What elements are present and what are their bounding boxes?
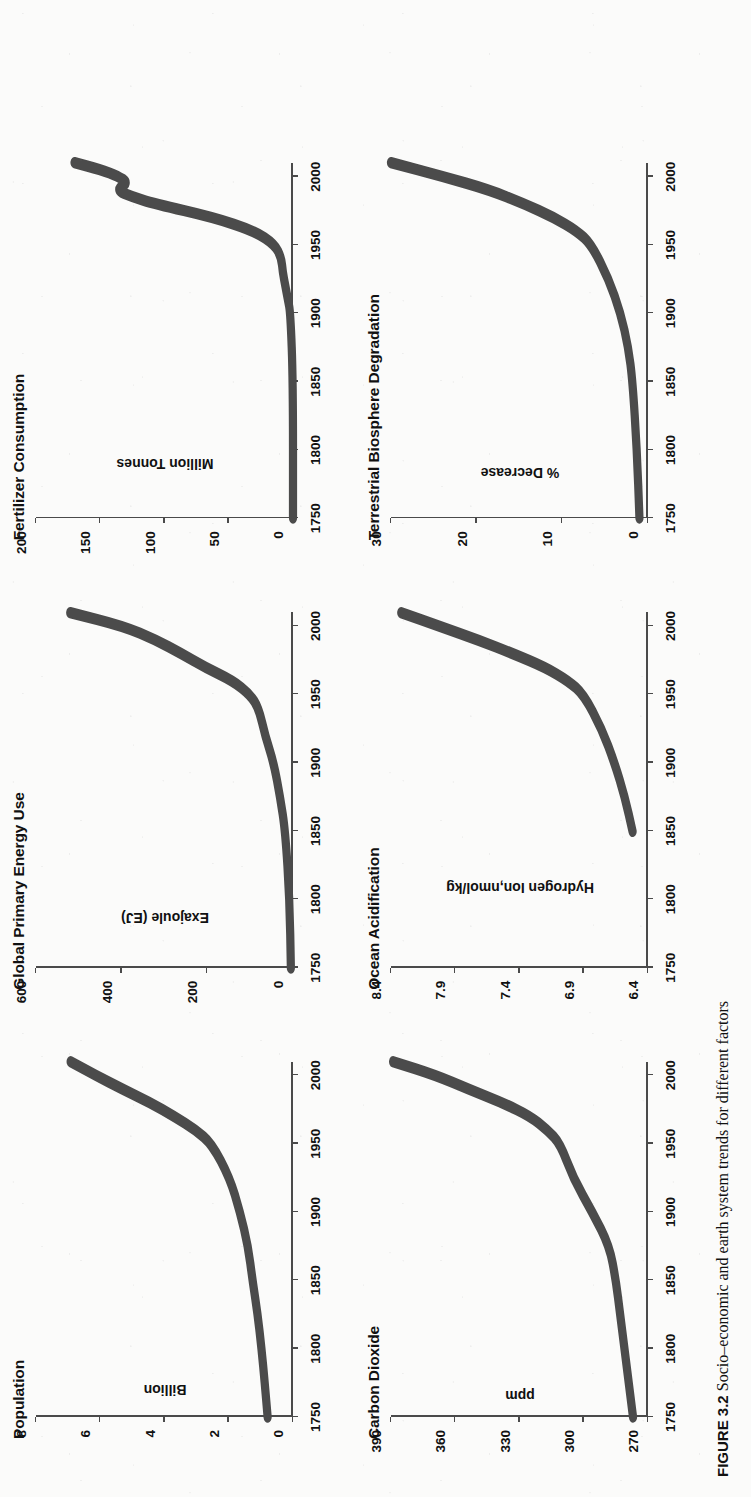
x-tick-label: 1800 (663, 1334, 678, 1364)
x-tick-mark (648, 830, 653, 831)
x-tick-label: 1800 (308, 435, 323, 465)
y-tick-labels-global-primary-energy-use: 0200400600 (36, 972, 293, 1024)
x-tick-mark (648, 244, 653, 245)
x-tick-label: 1850 (308, 816, 323, 846)
data-curve-ocean-acidification (391, 612, 648, 967)
x-tick-label: 1900 (663, 748, 678, 778)
x-tick-label: 1800 (308, 1334, 323, 1364)
data-curve-fertilizer-consumption (36, 163, 293, 518)
x-tick-mark (293, 1279, 298, 1280)
x-tick-labels-population: 175018001850190019502000 (299, 1062, 319, 1417)
x-tick-labels-terrestrial-biosphere-degradation: 175018001850190019502000 (654, 163, 674, 518)
chart-panel-fertilizer-consumption: Fertilizer Consumption Million Tonnes 17… (6, 147, 351, 580)
x-tick-mark (648, 1347, 653, 1348)
x-tick-mark (293, 625, 298, 626)
y-tick-label: 20 (454, 531, 469, 546)
y-tick-label: 10 (540, 531, 555, 546)
y-tick-label: 0 (271, 531, 286, 539)
y-tick-label: 400 (99, 981, 114, 1004)
data-curve-global-primary-energy-use (36, 612, 293, 967)
y-tick-label: 6.9 (561, 981, 576, 1000)
x-tick-labels-fertilizer-consumption: 175018001850190019502000 (299, 163, 319, 518)
y-tick-label: 0 (271, 981, 286, 989)
x-tick-label: 1800 (663, 884, 678, 914)
y-tick-label: 360 (433, 1430, 448, 1453)
y-tick-label: 200 (14, 531, 29, 554)
x-tick-label: 1950 (308, 679, 323, 709)
x-tick-mark (648, 517, 653, 518)
chart-title-terrestrial-biosphere-degradation: Terrestrial Biosphere Degradation (365, 294, 383, 540)
data-curve-population (36, 1062, 293, 1417)
x-tick-label: 1900 (308, 1197, 323, 1227)
y-tick-labels-fertilizer-consumption: 050100150200 (36, 522, 293, 574)
x-tick-mark (648, 761, 653, 762)
x-tick-label: 1950 (663, 1129, 678, 1159)
x-tick-label: 2000 (308, 611, 323, 641)
y-tick-label: 390 (369, 1430, 384, 1453)
chart-panel-global-primary-energy-use: Global Primary Energy Use Exajoule (EJ) … (6, 596, 351, 1029)
y-tick-label: 330 (497, 1430, 512, 1453)
x-tick-label: 1900 (308, 748, 323, 778)
x-tick-mark (293, 1142, 298, 1143)
y-tick-label: 6 (78, 1430, 93, 1438)
y-tick-label: 8.4 (369, 981, 384, 1000)
x-tick-labels-ocean-acidification: 175018001850190019502000 (654, 612, 674, 967)
x-tick-mark (648, 1074, 653, 1075)
x-tick-label: 1900 (663, 1197, 678, 1227)
plot-area-global-primary-energy-use: Exajoule (EJ) 175018001850190019502000 0… (36, 612, 293, 967)
y-tick-label: 150 (78, 531, 93, 554)
x-tick-label: 1750 (308, 503, 323, 533)
x-tick-mark (293, 1211, 298, 1212)
x-tick-mark (648, 693, 653, 694)
y-tick-label: 100 (142, 531, 157, 554)
y-tick-label: 0 (626, 531, 641, 539)
x-tick-mark (648, 449, 653, 450)
x-tick-mark (293, 830, 298, 831)
x-tick-mark (293, 761, 298, 762)
figure-caption: FIGURE 3.2 Socio–economic and earth syst… (714, 1001, 732, 1477)
rotated-figure-canvas: Population Billion 175018001850190019502… (0, 0, 751, 1497)
x-tick-mark (293, 244, 298, 245)
y-tick-label: 200 (185, 981, 200, 1004)
x-tick-label: 1750 (663, 953, 678, 983)
x-tick-label: 2000 (308, 1060, 323, 1090)
x-tick-label: 1850 (308, 1265, 323, 1295)
x-tick-mark (648, 625, 653, 626)
plot-area-carbon-dioxide: ppm 175018001850190019502000 27030033036… (391, 1062, 648, 1417)
y-tick-label: 0 (271, 1430, 286, 1438)
x-tick-label: 1850 (663, 367, 678, 397)
x-tick-label: 1800 (308, 884, 323, 914)
figure-number: FIGURE 3.2 (714, 1395, 731, 1477)
plot-area-population: Billion 175018001850190019502000 02468 (36, 1062, 293, 1417)
y-tick-label: 50 (206, 531, 221, 546)
x-tick-mark (648, 1416, 653, 1417)
x-tick-label: 2000 (663, 1060, 678, 1090)
y-tick-label: 7.4 (497, 981, 512, 1000)
chart-title-global-primary-energy-use: Global Primary Energy Use (10, 792, 28, 989)
y-tick-labels-ocean-acidification: 6.46.97.47.98.4 (391, 972, 648, 1024)
x-tick-mark (293, 1416, 298, 1417)
x-tick-mark (648, 175, 653, 176)
data-curve-carbon-dioxide (391, 1062, 648, 1417)
chart-panel-population: Population Billion 175018001850190019502… (6, 1046, 351, 1479)
x-tick-mark (648, 312, 653, 313)
x-tick-label: 1800 (663, 435, 678, 465)
y-tick-label: 7.9 (433, 981, 448, 1000)
y-tick-label: 4 (142, 1430, 157, 1438)
x-tick-label: 1850 (663, 816, 678, 846)
x-tick-label: 2000 (663, 162, 678, 192)
y-tick-label: 2 (206, 1430, 221, 1438)
x-tick-mark (648, 380, 653, 381)
chart-panel-carbon-dioxide: Carbon Dioxide ppm 175018001850190019502… (361, 1046, 706, 1479)
x-tick-mark (648, 1279, 653, 1280)
x-tick-mark (293, 175, 298, 176)
chart-title-population: Population (10, 1360, 28, 1439)
y-tick-label: 270 (626, 1430, 641, 1453)
x-tick-label: 1750 (663, 503, 678, 533)
chart-panel-terrestrial-biosphere-degradation: Terrestrial Biosphere Degradation % Decr… (361, 147, 706, 580)
y-tick-labels-population: 02468 (36, 1421, 293, 1473)
x-tick-mark (293, 1074, 298, 1075)
x-tick-label: 1950 (308, 1129, 323, 1159)
x-tick-label: 1900 (663, 298, 678, 328)
x-tick-label: 1950 (308, 230, 323, 260)
